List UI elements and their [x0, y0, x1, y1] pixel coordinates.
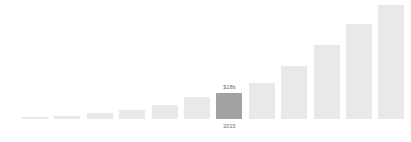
bar	[54, 116, 80, 119]
chart-plot-area: $18b2015	[0, 0, 411, 142]
bar	[314, 45, 340, 119]
bar-category-label: 2015	[216, 123, 242, 129]
bar	[281, 66, 307, 119]
bar	[346, 24, 372, 119]
bar	[87, 113, 113, 119]
bar-highlighted	[216, 93, 242, 119]
bar	[119, 110, 145, 119]
bar	[184, 97, 210, 119]
bar-value-label: $18b	[216, 84, 242, 90]
bar-chart: $18b2015	[0, 0, 411, 142]
bar	[249, 83, 275, 119]
bar	[22, 117, 48, 119]
bar	[152, 105, 178, 119]
bar	[378, 5, 404, 119]
